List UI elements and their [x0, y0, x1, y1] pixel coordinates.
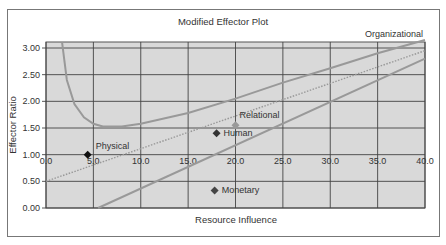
point-label-monetary: Monetary: [222, 185, 260, 195]
point-label-human: Human: [224, 128, 253, 138]
y-axis-label: Effector Ratio: [7, 96, 18, 153]
y-tick-label: 1.50: [22, 123, 40, 133]
chart-title: Modified Effector Plot: [178, 16, 268, 27]
x-tick-label: 35.0: [369, 156, 387, 166]
x-axis-label: Resource Influence: [195, 214, 277, 225]
x-tick-label: 30.0: [321, 156, 339, 166]
y-tick-label: 3.00: [22, 43, 40, 53]
point-label-relational: Relational: [240, 110, 280, 120]
y-tick-label: 0.00: [22, 203, 40, 213]
effector-plot: 0.000.501.001.502.002.503.000.05.010.015…: [0, 0, 446, 245]
x-tick-label: 25.0: [274, 156, 292, 166]
y-tick-label: 0.50: [22, 176, 40, 186]
x-tick-label: 0.0: [40, 156, 53, 166]
y-tick-label: 2.50: [22, 70, 40, 80]
y-tick-label: 1.00: [22, 150, 40, 160]
y-tick-label: 2.00: [22, 96, 40, 106]
x-tick-label: 10.0: [132, 156, 150, 166]
x-tick-label: 20.0: [227, 156, 245, 166]
series-label-organizational: Organizational: [365, 29, 423, 39]
x-tick-label: 40.0: [416, 156, 434, 166]
point-label-physical: Physical: [96, 141, 130, 151]
